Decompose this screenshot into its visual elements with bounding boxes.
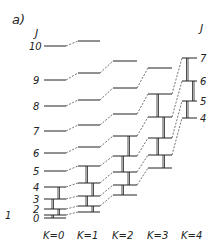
- k-label-1: K=1: [77, 230, 98, 241]
- k-label-4: K=4: [181, 230, 202, 241]
- j-label-1: 1: [5, 210, 11, 221]
- right-j-label-6: 6: [200, 76, 206, 87]
- k-label-2: K=2: [112, 230, 133, 241]
- right-j-label-7: 7: [200, 53, 207, 64]
- j-axis-label-right: J: [198, 22, 203, 35]
- energy-level-diagram: a) J J 109876543210 7654 K=0K=1K=2K=3K=4: [0, 0, 215, 245]
- j-label-4: 4: [33, 182, 39, 193]
- j-label-8: 8: [33, 101, 39, 112]
- k-labels: K=0K=1K=2K=3K=4: [43, 230, 202, 241]
- j-label-10: 10: [29, 41, 42, 52]
- panel-label: a): [12, 12, 25, 27]
- j-label-6: 6: [33, 148, 39, 159]
- k-label-3: K=3: [147, 230, 168, 241]
- left-j-labels: 109876543210: [5, 41, 42, 224]
- k-label-0: K=0: [43, 230, 64, 241]
- j-label-0: 0: [33, 213, 39, 224]
- right-j-label-5: 5: [200, 96, 206, 107]
- right-j-labels: 7654: [200, 53, 207, 124]
- j-label-7: 7: [33, 126, 40, 137]
- j-label-9: 9: [33, 75, 39, 86]
- j-axis-label-left: J: [33, 27, 38, 40]
- j-label-5: 5: [33, 166, 39, 177]
- right-j-label-4: 4: [200, 113, 206, 124]
